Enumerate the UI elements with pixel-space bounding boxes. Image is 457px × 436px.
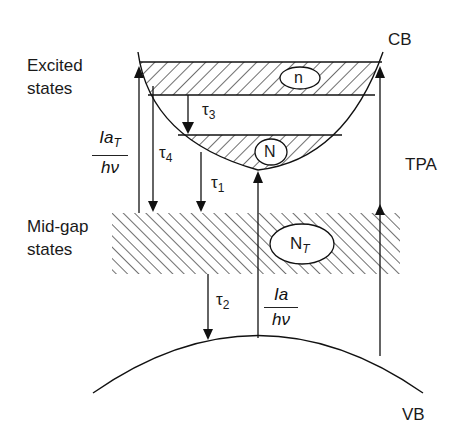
excited-label-2: states	[27, 79, 72, 99]
excited-label-1: Excited	[27, 56, 83, 76]
N-label: N	[264, 142, 276, 162]
midgap-label-2: states	[27, 240, 72, 260]
tau4-label: τ4	[159, 143, 172, 168]
fraction-iat-hv: IaT hν	[92, 128, 128, 178]
tpa-label: TPA	[405, 155, 437, 175]
valence-band-curve	[93, 336, 423, 394]
tau3-label: τ3	[202, 100, 215, 125]
n-label: n	[294, 68, 303, 88]
NT-label: NT	[290, 234, 310, 259]
tau2-label: τ2	[216, 290, 229, 315]
vb-label: VB	[402, 405, 425, 425]
tau1-label: τ1	[211, 173, 224, 198]
midgap-label-1: Mid-gap	[27, 217, 88, 237]
fraction-ia-hv: Ia hν	[264, 285, 298, 330]
midgap-band	[112, 213, 400, 274]
cb-label: CB	[388, 30, 412, 50]
